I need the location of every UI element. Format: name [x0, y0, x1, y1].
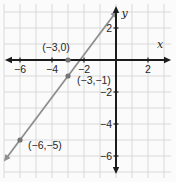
- y-axis-label: y: [121, 7, 129, 20]
- coordinate-plane: −6−4−222−2−4−6xy(−3,0)(−3,−1)(−6,−5): [0, 0, 176, 182]
- point-label: (−6,−5): [28, 139, 62, 151]
- graph-canvas: −6−4−222−2−4−6xy(−3,0)(−3,−1)(−6,−5): [0, 0, 176, 182]
- x-axis-label: x: [157, 38, 164, 51]
- point-dot: [65, 73, 70, 78]
- x-tick-label: 2: [145, 63, 151, 75]
- point-label: (−3,0): [42, 41, 70, 53]
- point-dot: [65, 57, 70, 62]
- point-dot: [17, 137, 22, 142]
- y-tick-label: −6: [100, 150, 112, 162]
- x-tick-label: −6: [14, 63, 26, 75]
- x-tick-label: −4: [46, 63, 58, 75]
- y-tick-label: 2: [106, 22, 112, 34]
- point-label: (−3,−1): [77, 74, 111, 86]
- plot-background: [0, 0, 176, 182]
- y-tick-label: −4: [100, 118, 112, 130]
- y-tick-label: −2: [100, 86, 112, 98]
